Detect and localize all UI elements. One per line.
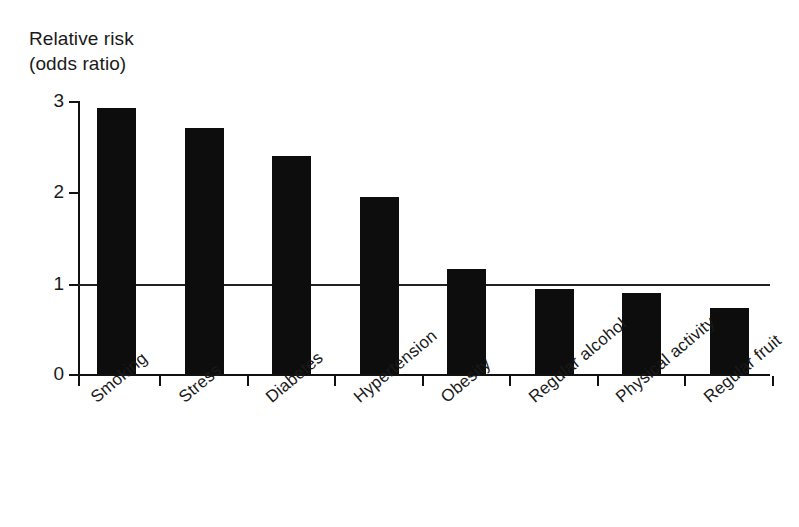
y-axis-line xyxy=(78,101,80,376)
plot-area: 3 2 1 0 SmokingStressDiabetesHypertensio… xyxy=(0,0,799,527)
y-tick-label-0-wrap: 0 xyxy=(14,363,64,385)
chart-figure: Relative risk (odds ratio) 3 2 1 0 Smoki… xyxy=(0,0,799,527)
bar-diabetes xyxy=(272,156,311,374)
y-tick-1 xyxy=(69,284,78,286)
y-tick-label-3-wrap: 3 xyxy=(14,90,64,112)
y-tick-label-1-wrap: 1 xyxy=(14,273,64,295)
y-tick-label-2: 2 xyxy=(24,181,64,203)
x-tick-6 xyxy=(597,376,599,386)
x-tick-5 xyxy=(509,376,511,386)
y-tick-label-1: 1 xyxy=(24,273,64,295)
reference-line-at-one xyxy=(78,284,770,286)
bar-smoking xyxy=(97,108,136,374)
x-tick-7 xyxy=(684,376,686,386)
x-tick-4 xyxy=(422,376,424,386)
y-tick-2 xyxy=(69,192,78,194)
x-tick-1 xyxy=(159,376,161,386)
x-tick-0 xyxy=(78,376,80,386)
bar-hypertension xyxy=(360,197,399,374)
y-tick-label-3: 3 xyxy=(24,90,64,112)
y-tick-label-0: 0 xyxy=(24,363,64,385)
x-axis-line xyxy=(78,374,770,376)
y-tick-0 xyxy=(69,374,78,376)
bar-stress xyxy=(185,128,224,374)
y-tick-3 xyxy=(69,101,78,103)
y-tick-label-2-wrap: 2 xyxy=(14,181,64,203)
x-tick-2 xyxy=(247,376,249,386)
x-tick-3 xyxy=(334,376,336,386)
x-tick-8 xyxy=(772,376,774,386)
